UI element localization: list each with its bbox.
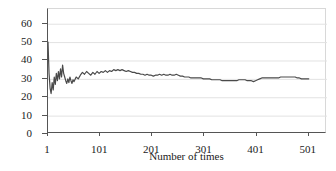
y-axis-tick <box>42 115 47 116</box>
chart-figure: Percentage of success 010203040506011012… <box>0 0 336 171</box>
x-axis-tick <box>203 132 204 136</box>
x-axis-tick <box>99 132 100 136</box>
y-axis-tick-label: 50 <box>10 36 32 46</box>
x-axis-tick <box>151 132 152 136</box>
x-axis-tick <box>308 132 309 136</box>
y-axis-tick-label: 20 <box>10 91 32 101</box>
y-axis-tick <box>42 78 47 79</box>
y-axis-tick <box>42 23 47 24</box>
y-axis-tick-label: 40 <box>10 54 32 64</box>
y-axis-tick <box>42 59 47 60</box>
y-axis-tick <box>42 96 47 97</box>
y-axis-tick-label: 10 <box>10 110 32 120</box>
x-axis-tick <box>47 132 48 136</box>
x-axis-title: Number of times <box>47 150 326 162</box>
y-axis-tick <box>42 41 47 42</box>
x-axis-tick <box>256 132 257 136</box>
y-axis-tick-label: 0 <box>10 128 32 138</box>
axis-ticks-group: 01020304050601101201301401501 <box>47 8 326 133</box>
y-axis-tick-label: 60 <box>10 18 32 28</box>
y-axis-tick-label: 30 <box>10 73 32 83</box>
